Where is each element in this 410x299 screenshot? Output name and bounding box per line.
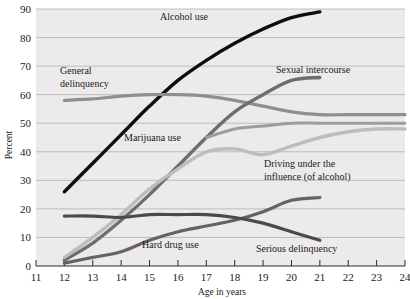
series-label-dui-line1: Driving under the (264, 158, 336, 169)
y-tick-label: 60 (20, 89, 32, 101)
x-tick-label: 14 (116, 271, 128, 283)
x-tick-label: 18 (229, 271, 241, 283)
x-axis-title: Age in years (198, 287, 246, 297)
x-tick-label: 13 (87, 271, 99, 283)
x-tick-label: 16 (172, 271, 184, 283)
x-tick-label: 11 (31, 271, 42, 283)
series-label-sexual-intercourse: Sexual intercourse (276, 64, 351, 75)
x-tick-label: 20 (286, 271, 298, 283)
y-tick-labels-group: 0102030405060708090 (20, 3, 32, 272)
series-label-general-delinquency-line1: General (60, 65, 92, 76)
series-label-hard-drug-use: Hard drug use (142, 239, 199, 250)
y-tick-label: 30 (20, 174, 32, 186)
y-tick-label: 10 (20, 231, 32, 243)
x-tick-label: 15 (144, 271, 156, 283)
x-tick-label: 23 (371, 271, 383, 283)
chart-figure: 0102030405060708090 11121314151617181920… (0, 0, 410, 299)
x-tick-labels-group: 1112131415161718192021222324 (31, 271, 410, 283)
plot-background (36, 9, 405, 266)
y-axis-title: Percent (4, 130, 14, 159)
x-tick-label: 24 (400, 271, 410, 283)
series-label-alcohol-use: Alcohol use (160, 11, 209, 22)
y-tick-label: 40 (20, 146, 32, 158)
x-tick-label: 21 (314, 271, 325, 283)
y-tick-label: 20 (20, 203, 32, 215)
x-tick-label: 17 (201, 271, 213, 283)
series-label-serious-delinquency: Serious delinquency (256, 243, 337, 254)
y-tick-label: 70 (20, 60, 32, 72)
y-tick-label: 90 (20, 3, 32, 15)
line-chart-canvas: 0102030405060708090 11121314151617181920… (0, 0, 410, 299)
series-label-dui-line2: influence (of alcohol) (264, 171, 351, 183)
y-tick-label: 80 (20, 32, 32, 44)
x-tick-label: 12 (59, 271, 70, 283)
series-label-general-delinquency-line2: delinquency (60, 78, 109, 89)
y-tick-label: 50 (20, 117, 32, 129)
x-tick-label: 19 (258, 271, 270, 283)
x-tick-label: 22 (343, 271, 354, 283)
series-label-marijuana-use: Marijuana use (124, 132, 181, 143)
